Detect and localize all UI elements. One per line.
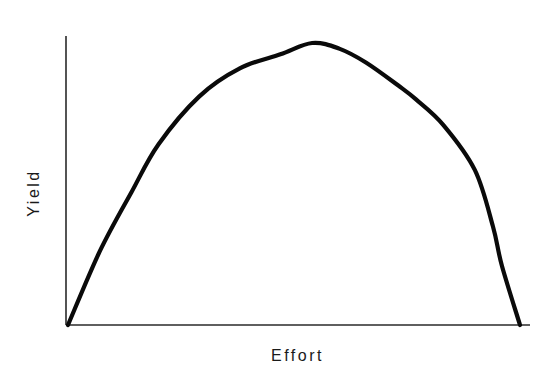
x-axis-label: Effort [0, 347, 555, 365]
y-axis-label: Yield [25, 169, 43, 216]
chart-canvas [0, 0, 555, 385]
yield-effort-curve [68, 43, 520, 325]
